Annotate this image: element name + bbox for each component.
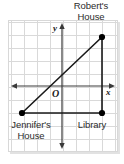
label-roberts-house: Robert's House: [58, 1, 124, 22]
x-axis: [11, 83, 115, 88]
label-roberts-house-line1: Robert's: [58, 1, 124, 12]
label-jennifers-house-line1: Jennifer's: [1, 120, 61, 131]
point-roberts-house: [99, 34, 105, 40]
x-axis-label: x: [106, 87, 111, 97]
y-axis-label: y: [53, 23, 57, 33]
diagram-root: Robert's House Jennifer's House Library …: [0, 0, 124, 164]
point-jennifers-house: [19, 110, 25, 116]
label-library: Library: [66, 120, 118, 131]
label-jennifers-house-line2: House: [1, 131, 61, 142]
origin-label: O: [52, 88, 59, 99]
label-library-line1: Library: [66, 120, 118, 131]
label-jennifers-house: Jennifer's House: [1, 120, 61, 141]
point-library: [99, 110, 105, 116]
label-roberts-house-line2: House: [58, 12, 124, 23]
